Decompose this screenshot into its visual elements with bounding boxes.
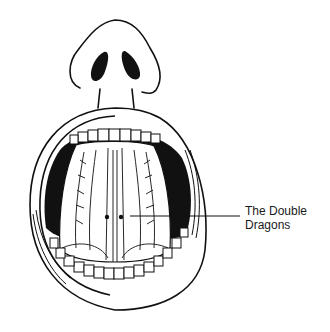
annotation-label: The Double Dragons (245, 204, 307, 232)
tongue (60, 141, 171, 262)
nostrils (91, 51, 140, 81)
annotation-label-line1: The Double (245, 204, 307, 218)
mouth-illustration (0, 0, 330, 332)
nose (70, 20, 160, 108)
annotation-label-line2: Dragons (245, 218, 307, 232)
